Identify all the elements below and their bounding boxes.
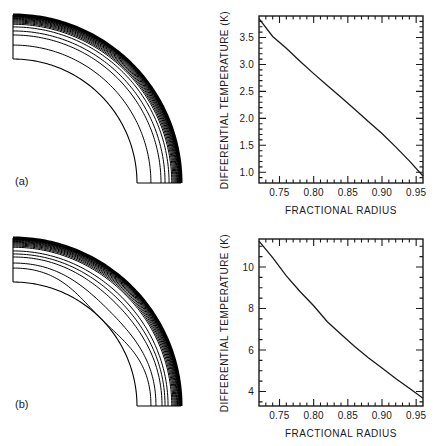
- x-tick-label: 0.95: [406, 187, 427, 198]
- plot-frame: [259, 16, 423, 183]
- y-axis-label-b: DIFFERENTIAL TEMPERATURE (K): [219, 234, 230, 412]
- y-tick-label: 2.0: [239, 113, 254, 124]
- contour-level: [13, 31, 165, 183]
- y-tick-label: 4: [248, 386, 254, 397]
- contour-level: [13, 246, 173, 406]
- temperature-curve: [259, 241, 423, 398]
- contour-level: [13, 27, 169, 183]
- x-tick-label: 0.85: [338, 187, 359, 198]
- y-tick-label: 3.0: [239, 59, 254, 70]
- y-tick-label: 3.5: [239, 32, 254, 43]
- y-tick-label: 8: [248, 303, 254, 314]
- y-tick-label: 1.5: [239, 140, 254, 151]
- y-tick-label: 10: [242, 262, 254, 273]
- contour-level: [13, 254, 165, 406]
- x-axis-label-a: FRACTIONAL RADIUS: [285, 205, 397, 216]
- x-tick-label: 0.75: [269, 410, 290, 421]
- panel-label-a: (a): [15, 175, 28, 187]
- panel-label-b: (b): [15, 398, 28, 410]
- x-tick-label: 0.95: [406, 410, 427, 421]
- contour-level: [13, 251, 168, 406]
- x-axis-label-b: FRACTIONAL RADIUS: [285, 428, 397, 439]
- inner-boundary-arc: [13, 282, 137, 406]
- line-plot-a: 0.750.800.850.900.951.01.52.02.53.03.5 F…: [219, 0, 438, 223]
- contour-plot-b: [0, 223, 219, 446]
- contour-plot-a: [0, 0, 219, 223]
- x-tick-label: 0.80: [304, 410, 325, 421]
- line-plot-b: 0.750.800.850.900.9546810 FRACTIONAL RAD…: [219, 223, 438, 446]
- axis-ticks: [259, 16, 423, 183]
- figure: 0.750.800.850.900.951.01.52.02.53.03.5 F…: [0, 0, 438, 446]
- y-tick-label: 6: [248, 345, 254, 356]
- x-tick-label: 0.85: [338, 410, 359, 421]
- contour-level: [13, 257, 162, 406]
- x-tick-label: 0.80: [304, 187, 325, 198]
- y-tick-label: 1.0: [239, 167, 254, 178]
- temperature-curve: [259, 19, 423, 176]
- y-tick-label: 2.5: [239, 86, 254, 97]
- contour-level: [13, 35, 161, 183]
- x-tick-label: 0.90: [372, 410, 393, 421]
- x-tick-label: 0.90: [372, 187, 393, 198]
- y-axis-label-a: DIFFERENTIAL TEMPERATURE (K): [219, 11, 230, 189]
- contour-level: [13, 263, 156, 406]
- inner-boundary-arc: [13, 59, 137, 183]
- x-tick-label: 0.75: [269, 187, 290, 198]
